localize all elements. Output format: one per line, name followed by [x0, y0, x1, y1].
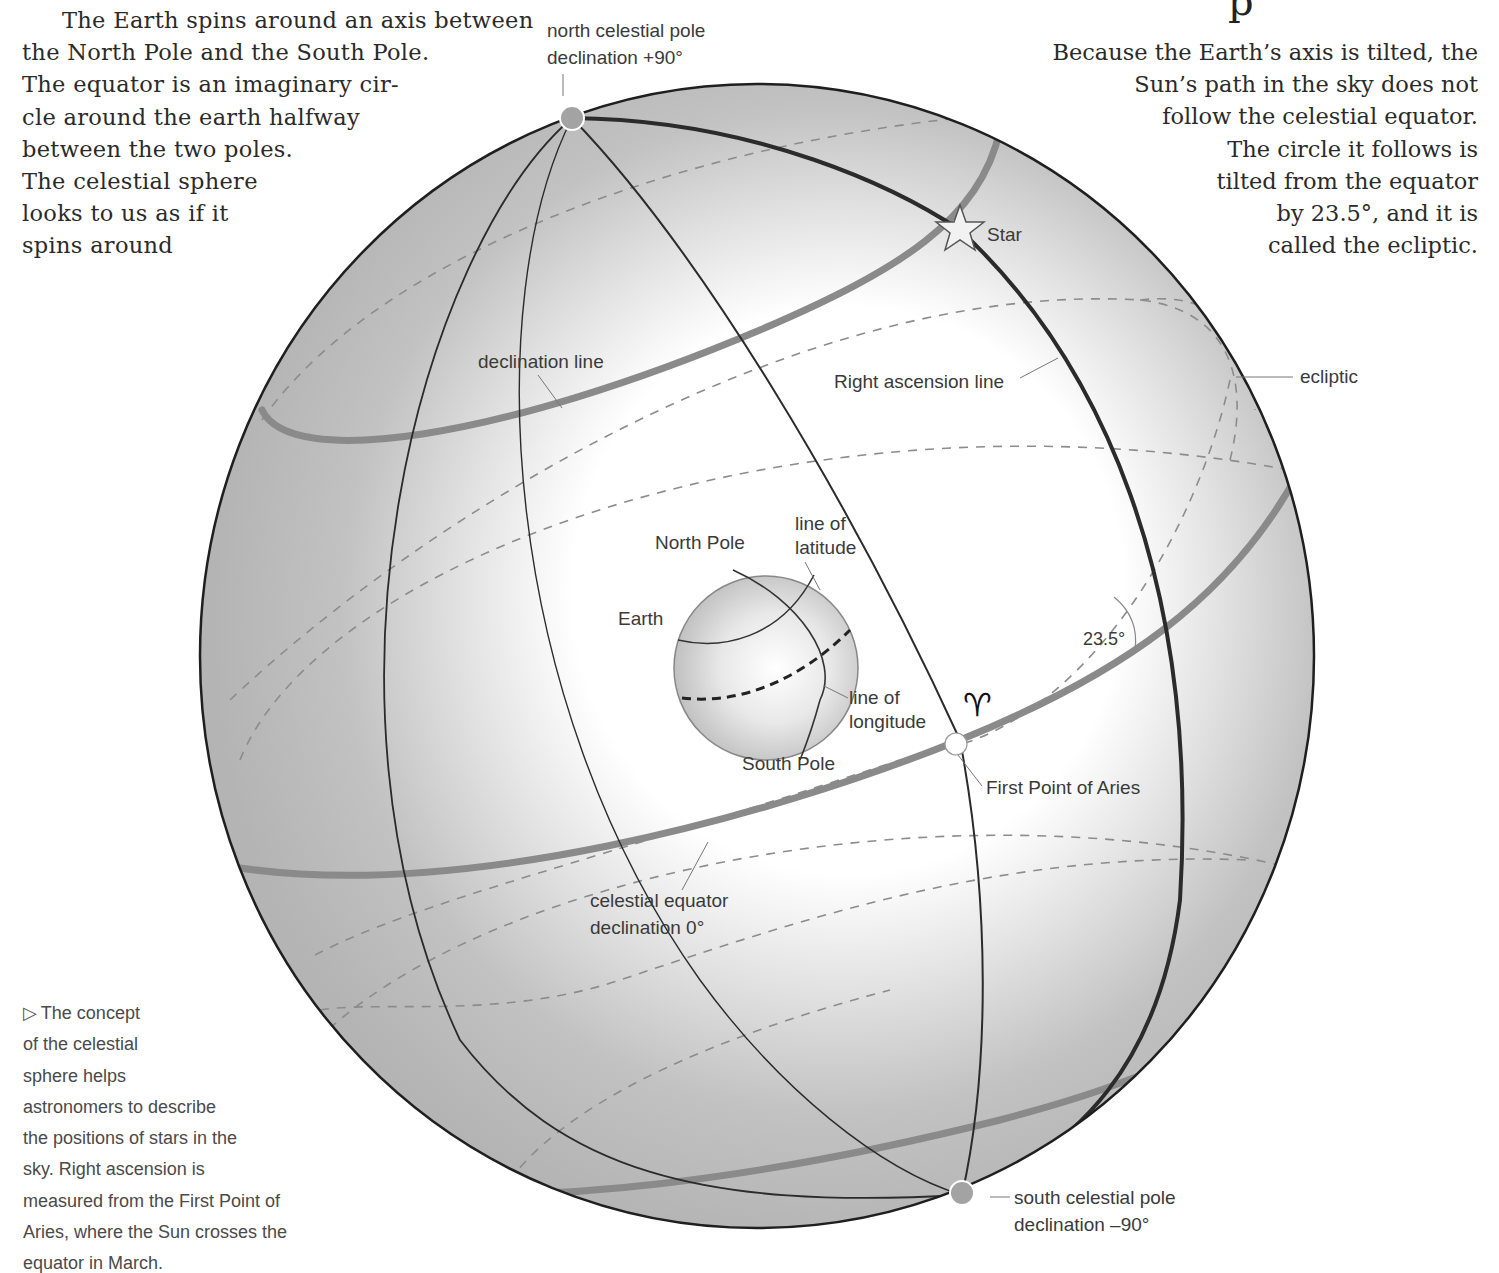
- label-line: south celestial pole: [1014, 1184, 1176, 1211]
- label-line: longitude: [849, 710, 926, 734]
- label-line: line of: [849, 686, 926, 710]
- label-star: Star: [987, 221, 1022, 248]
- label-line-of-longitude: line of longitude: [849, 686, 926, 734]
- caption-line: equator in March.: [23, 1248, 353, 1273]
- label-declination-line: declination line: [478, 348, 604, 375]
- label-ecliptic: ecliptic: [1300, 363, 1358, 390]
- label-north-pole: North Pole: [655, 529, 745, 556]
- caption-line: astronomers to describe: [23, 1092, 353, 1123]
- label-earth: Earth: [618, 605, 663, 632]
- caption-line: Aries, where the Sun crosses the: [23, 1217, 353, 1248]
- caption-text: The concept: [41, 1003, 140, 1023]
- aries-symbol-icon: ♈︎: [963, 692, 992, 719]
- label-south-pole: South Pole: [742, 750, 835, 777]
- label-line: line of: [795, 512, 856, 536]
- label-first-point-of-aries: First Point of Aries: [986, 774, 1140, 801]
- label-angle: 23.5°: [1083, 626, 1125, 653]
- label-line: north celestial pole: [547, 17, 705, 44]
- label-south-celestial-pole: south celestial pole declination –90°: [1014, 1184, 1176, 1238]
- first-point-of-aries-dot: [945, 733, 967, 755]
- label-north-celestial-pole: north celestial pole declination +90°: [547, 17, 705, 71]
- label-line: latitude: [795, 536, 856, 560]
- label-right-ascension-line: Right ascension line: [834, 368, 1004, 395]
- label-celestial-equator: celestial equator declination 0°: [590, 887, 728, 941]
- north-celestial-pole-dot: [560, 106, 584, 130]
- caption-line: sphere helps: [23, 1061, 353, 1092]
- south-celestial-pole-dot: [950, 1181, 974, 1205]
- caption-line: sky. Right ascension is: [23, 1154, 353, 1185]
- figure-caption: ▷The concept of the celestial sphere hel…: [23, 998, 353, 1273]
- caption-line: measured from the First Point of: [23, 1186, 353, 1217]
- label-line: declination –90°: [1014, 1211, 1176, 1238]
- label-line: declination 0°: [590, 914, 728, 941]
- caption-arrow-icon: ▷: [23, 1003, 37, 1023]
- label-line: declination +90°: [547, 44, 705, 71]
- label-line-of-latitude: line of latitude: [795, 512, 856, 560]
- caption-line: of the celestial: [23, 1029, 353, 1060]
- label-line: celestial equator: [590, 887, 728, 914]
- caption-line: ▷The concept: [23, 998, 353, 1029]
- caption-line: the positions of stars in the: [23, 1123, 353, 1154]
